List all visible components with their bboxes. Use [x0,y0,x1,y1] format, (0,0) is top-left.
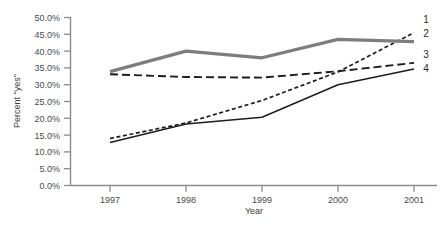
x-tick-label: 2001 [404,195,424,205]
y-tick-label: 30.0% [34,80,60,90]
chart-container: 0.0%5.0%10.0%15.0%20.0%25.0%30.0%35.0%40… [0,0,442,227]
y-tick-label: 35.0% [34,63,60,73]
y-tick-label: 20.0% [34,114,60,124]
x-tick-label: 1999 [252,195,272,205]
x-tick-label: 2000 [328,195,348,205]
line-chart: 0.0%5.0%10.0%15.0%20.0%25.0%30.0%35.0%40… [0,0,442,227]
legend-label-4: 4 [423,63,429,74]
y-tick-label: 0.0% [39,181,60,191]
y-tick-label: 50.0% [34,13,60,23]
y-tick-label: 5.0% [39,164,60,174]
y-tick-label: 15.0% [34,131,60,141]
y-tick-label: 45.0% [34,30,60,40]
y-tick-label: 25.0% [34,97,60,107]
y-axis-title: Percent "yes" [12,74,22,128]
legend-label-2: 2 [423,28,429,39]
x-axis-title: Year [245,206,263,216]
legend-label-3: 3 [423,49,429,60]
x-tick-label: 1997 [100,195,120,205]
x-tick-label: 1998 [176,195,196,205]
y-tick-label: 40.0% [34,47,60,57]
y-tick-label: 10.0% [34,147,60,157]
legend-label-1: 1 [423,14,429,25]
